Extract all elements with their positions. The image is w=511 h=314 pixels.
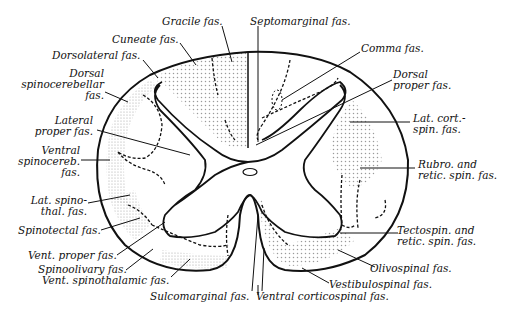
label-dorsal-proper-2: proper fas. xyxy=(393,80,451,91)
label-sulcomarginal: Sulcomarginal fas. xyxy=(150,291,249,302)
dorsal-column-stipple xyxy=(150,52,248,148)
label-vestibulospinal: Vestibulospinal fas. xyxy=(329,279,432,290)
label-rubro-retic-2: retic. spin. fas. xyxy=(418,170,497,181)
label-ventral-corticospinal: Ventral corticospinal fas. xyxy=(256,291,389,302)
label-cuneate: Cuneate fas. xyxy=(112,34,179,45)
label-vent-proper: Vent. proper fas. xyxy=(28,250,117,261)
ventral-left-stipple xyxy=(160,250,228,268)
label-olivospinal: Olivospinal fas. xyxy=(370,263,452,274)
label-tectospin-2: retic. spin. fas. xyxy=(397,236,476,247)
label-comma: Comma fas. xyxy=(361,43,424,54)
lateral-rim-stipple xyxy=(106,80,158,205)
grey-matter-outline xyxy=(155,82,346,237)
label-ventral-spinocereb-3: fas. xyxy=(61,167,80,178)
spinal-cord-diagram: Gracile fas. Septomarginal fas. Cuneate … xyxy=(0,0,511,314)
label-vent-spinothalamic: Vent. spinothalamic fas. xyxy=(42,275,169,286)
label-dorsal-spinocerebellar-3: fas. xyxy=(85,90,104,101)
label-gracile: Gracile fas. xyxy=(162,16,223,27)
label-lat-cort-spin-2: spin. fas. xyxy=(413,124,461,135)
label-septomarginal: Septomarginal fas. xyxy=(250,16,351,27)
label-dorsolateral: Dorsolateral fas. xyxy=(52,50,140,61)
label-lateral-proper-2: proper fas. xyxy=(35,126,93,137)
central-canal xyxy=(243,169,257,176)
label-spinotectal: Spinotectal fas. xyxy=(18,225,101,236)
label-lat-spinothal-2: thal. fas. xyxy=(41,206,87,217)
